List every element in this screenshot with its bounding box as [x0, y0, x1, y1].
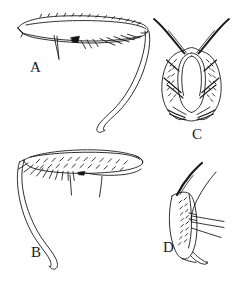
- panel-label-d: D: [163, 240, 174, 255]
- panel-d-drawing: [169, 163, 224, 264]
- panel-label-a: A: [30, 60, 41, 75]
- panel-c-drawing: [154, 19, 229, 121]
- figure-plate: A B C D: [0, 0, 247, 281]
- panel-label-c: C: [192, 127, 202, 142]
- figure-drawing: [0, 0, 247, 281]
- panel-label-b: B: [31, 245, 41, 260]
